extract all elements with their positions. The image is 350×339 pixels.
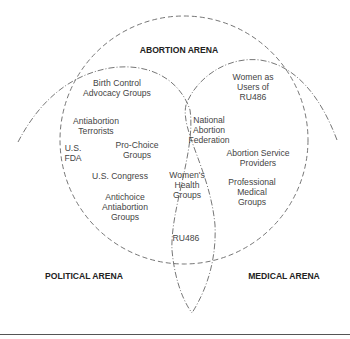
actor-naf: National Abortion Federation [188, 115, 229, 146]
bottom-rule [0, 334, 350, 335]
actor-womens-health: Women's Health Groups [169, 170, 204, 201]
abortion-arena-label: ABORTION ARENA [140, 45, 218, 55]
actor-pro-choice: Pro-Choice Groups [116, 140, 159, 160]
actor-antiabortion-terrorists: Antiabortion Terrorists [73, 116, 119, 136]
actor-abortion-service: Abortion Service Providers [226, 148, 289, 168]
actor-us-congress: U.S. Congress [92, 171, 148, 181]
actor-women-users: Women as Users of RU486 [233, 72, 274, 103]
medical-arena-label: MEDICAL ARENA [248, 271, 320, 281]
actor-professional-medical: Professional Medical Groups [228, 177, 275, 208]
political-arena-label: POLITICAL ARENA [45, 271, 123, 281]
actor-ru486: RU486 [173, 233, 200, 243]
actor-antichoice: Antichoice Antiabortion Groups [102, 192, 148, 223]
actor-us-fda: U.S. FDA [64, 143, 81, 163]
actor-birth-control: Birth Control Advocacy Groups [83, 78, 151, 98]
